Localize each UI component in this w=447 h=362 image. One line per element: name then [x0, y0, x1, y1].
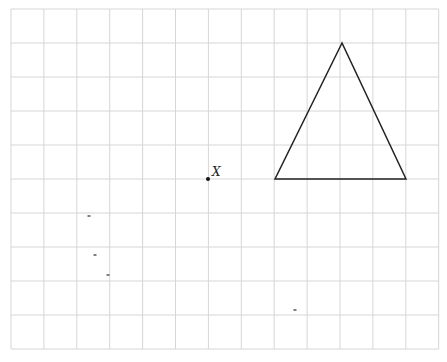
stray-marks [88, 215, 297, 311]
stray-mark [107, 274, 110, 276]
point-x [206, 177, 210, 181]
grid-diagram: X [0, 0, 447, 362]
stray-mark [88, 215, 91, 217]
point-x-label: X [211, 165, 221, 179]
stray-mark [294, 309, 297, 311]
stray-mark [94, 254, 97, 256]
